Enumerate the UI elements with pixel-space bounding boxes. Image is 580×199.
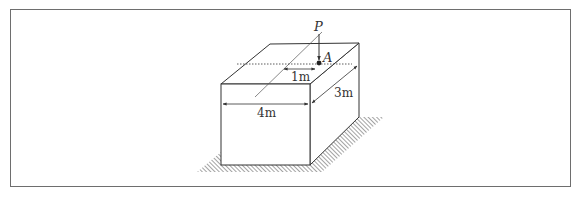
label-load-P: P [313,19,323,34]
label-4m: 4m [257,106,277,120]
label-3m: 3m [334,86,354,100]
point-A-marker [317,61,322,66]
block-front-face [221,84,310,165]
label-1m: 1m [291,70,311,84]
label-point-A: A [322,50,332,65]
block-diagram: 1m P A 4m 3m [0,0,580,199]
